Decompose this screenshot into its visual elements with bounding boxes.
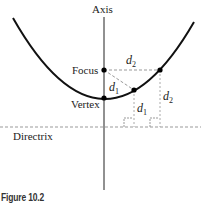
parabola-figure: Axis Focus Vertex Directrix d 2 d 1 d 1 … (0, 0, 201, 208)
p2-point (157, 67, 162, 72)
right-angle-marker-p1 (124, 118, 133, 127)
d1-diag-subscript: 1 (115, 87, 119, 96)
figure-caption: Figure 10.2 (1, 192, 44, 203)
focus-point (101, 67, 106, 72)
vertex-point (101, 95, 106, 100)
directrix-label: Directrix (13, 130, 53, 142)
axis-label: Axis (92, 3, 113, 15)
right-angle-marker-p2 (150, 118, 159, 127)
p1-point (131, 87, 136, 92)
vertex-label: Vertex (71, 98, 100, 110)
parabola-diagram: Axis Focus Vertex Directrix d 2 d 1 d 1 … (0, 0, 201, 208)
d1-vert-subscript: 1 (143, 108, 147, 117)
d2-vert-subscript: 2 (169, 96, 173, 105)
d2-top-subscript: 2 (132, 60, 136, 69)
focus-label: Focus (72, 64, 98, 76)
